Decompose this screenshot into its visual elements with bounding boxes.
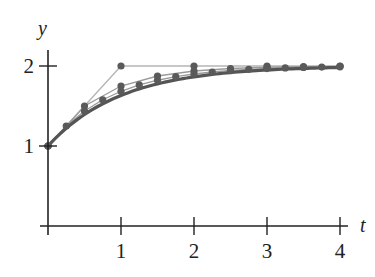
data-point: [282, 64, 289, 71]
data-point: [336, 63, 343, 70]
x-tick-label: 3: [262, 239, 273, 263]
data-point: [63, 122, 70, 129]
x-ticks: 1234: [116, 217, 346, 263]
y-tick-label: 2: [24, 54, 35, 78]
data-point: [81, 107, 88, 114]
data-point: [245, 66, 252, 73]
x-axis-label: t: [360, 214, 366, 236]
x-tick-label: 1: [116, 239, 127, 263]
data-point: [190, 70, 197, 77]
data-point: [117, 88, 124, 95]
data-point: [300, 64, 307, 71]
data-point: [209, 68, 216, 75]
data-point: [227, 67, 234, 74]
euler-approximation-line: [48, 67, 340, 146]
data-point: [263, 65, 270, 72]
data-point: [99, 96, 106, 103]
axes: 1234 12 t y: [24, 17, 367, 263]
x-tick-label: 4: [335, 239, 346, 263]
data-point: [318, 63, 325, 70]
data-point: [136, 81, 143, 88]
data-point: [154, 77, 161, 84]
plot-series: [44, 62, 343, 149]
y-axis-label: y: [36, 17, 47, 40]
euler-approximation-chart: 1234 12 t y: [0, 0, 375, 277]
data-point: [172, 73, 179, 80]
data-point: [117, 62, 124, 69]
x-tick-label: 2: [189, 239, 200, 263]
y-tick-label: 1: [24, 134, 35, 158]
